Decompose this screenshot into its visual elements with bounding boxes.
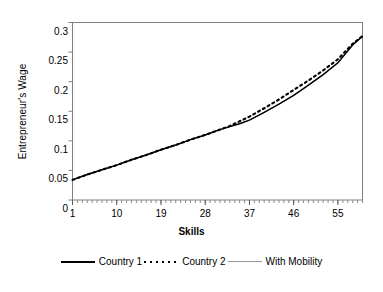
x-tick-label: 1 — [70, 208, 76, 220]
y-ticks — [69, 23, 73, 201]
x-tick-label-group: 1101928374655 — [0, 208, 383, 222]
legend-swatch-dotted-icon — [144, 258, 178, 266]
x-axis-title: Skills — [0, 226, 383, 237]
legend-item-country-2: Country 2 — [144, 256, 225, 267]
chart-legend: Country 1 Country 2 With Mobility — [0, 256, 383, 267]
plot-area — [0, 0, 383, 292]
legend-item-country-1: Country 1 — [61, 256, 142, 267]
x-tick-label: 10 — [111, 208, 122, 220]
x-tick-label: 37 — [244, 208, 255, 220]
legend-label-with-mobility: With Mobility — [266, 256, 323, 267]
legend-swatch-solid-icon — [61, 258, 95, 266]
legend-label-country-1: Country 1 — [99, 256, 142, 267]
legend-swatch-gray-icon — [228, 258, 262, 266]
chart-figure: Entrepreneur's Wage 00.050.10.150.20.250… — [0, 0, 383, 292]
legend-item-with-mobility: With Mobility — [228, 256, 323, 267]
x-tick-label: 28 — [200, 208, 211, 220]
plot-frame — [73, 23, 363, 201]
x-tick-label: 46 — [288, 208, 299, 220]
legend-label-country-2: Country 2 — [182, 256, 225, 267]
x-tick-label: 55 — [332, 208, 343, 220]
x-tick-label: 19 — [155, 208, 166, 220]
